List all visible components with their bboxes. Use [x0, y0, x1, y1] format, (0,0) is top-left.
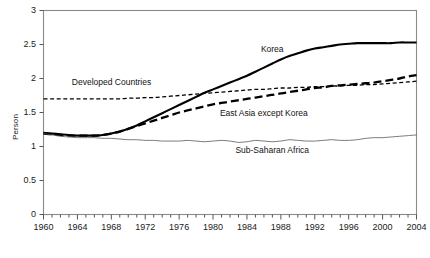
series-label-east-asia-except-korea: East Asia except Korea: [220, 108, 308, 118]
series-label-sub-saharan-africa: Sub-Saharan Africa: [235, 145, 309, 155]
y-axis-tick-label: 3: [10, 5, 36, 15]
line-chart-plot: [0, 0, 430, 258]
y-axis-tick-label: 0: [10, 209, 36, 219]
series-label-korea: Korea: [261, 44, 284, 54]
y-axis-tick-label: 1: [10, 141, 36, 151]
chart-container: 00.511.522.53196019641968197219761980198…: [0, 0, 430, 258]
y-axis-tick-label: 2.5: [10, 39, 36, 49]
y-axis-tick-label: 2: [10, 73, 36, 83]
x-axis-tick-label: 2004: [397, 222, 430, 232]
y-axis-title: Person: [11, 114, 20, 140]
y-axis-tick-label: 0.5: [10, 175, 36, 185]
series-line-korea: [44, 42, 417, 135]
series-label-developed-countries: Developed Countries: [72, 77, 151, 87]
